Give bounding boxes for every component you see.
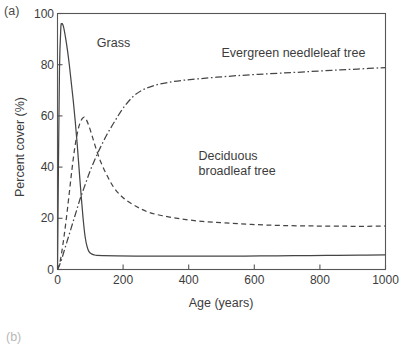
- x-tick-label: 0: [33, 274, 83, 286]
- series-line-1: [58, 117, 386, 269]
- series-annotation-1: Evergreen needleleaf tree: [222, 46, 366, 61]
- next-panel-label: (b): [6, 330, 21, 344]
- y-axis-tick-labels: 020406080100: [26, 0, 54, 284]
- y-tick-label: 100: [28, 8, 54, 20]
- series-annotation-2: Deciduous broadleaf tree: [199, 149, 276, 179]
- x-tick-label: 800: [295, 274, 345, 286]
- x-axis-label: Age (years): [57, 296, 385, 310]
- panel-label: (a): [4, 4, 20, 18]
- x-axis-tick-labels: 02004006008001000: [0, 274, 403, 296]
- y-tick-label: 60: [28, 110, 54, 122]
- y-tick-label: 20: [28, 212, 54, 224]
- y-axis-label: Percent cover (%): [13, 67, 27, 227]
- y-tick-label: 80: [28, 59, 54, 71]
- x-tick-label: 200: [98, 274, 148, 286]
- x-tick-label: 600: [229, 274, 279, 286]
- y-tick-label: 40: [28, 161, 54, 173]
- x-tick-label: 1000: [361, 274, 403, 286]
- x-tick-label: 400: [164, 274, 214, 286]
- series-annotation-0: Grass: [97, 36, 130, 51]
